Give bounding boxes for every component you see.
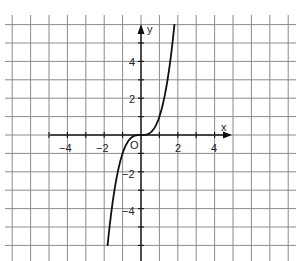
y-tick-label: 2 [129, 93, 135, 105]
x-tick-label: 4 [211, 142, 217, 154]
cubic-function-graph: x y −4 −2 2 4 4 2 −2 −4 O [0, 0, 301, 261]
y-tick-label: 4 [129, 56, 135, 68]
y-axis: y [138, 23, 154, 261]
origin-label: O [130, 139, 139, 151]
y-tick-label: −4 [122, 205, 135, 217]
x-axis-label: x [221, 121, 227, 133]
y-axis-arrow-icon [138, 24, 145, 34]
y-tick-label: −2 [122, 168, 135, 180]
x-tick-label: 2 [175, 142, 181, 154]
y-axis-label: y [147, 23, 153, 35]
x-tick-label: −4 [59, 142, 72, 154]
x-tick-label: −2 [96, 142, 109, 154]
